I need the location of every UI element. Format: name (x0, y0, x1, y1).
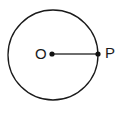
circle-radius-figure: O P (0, 0, 123, 115)
circumference-point-label: P (105, 45, 115, 60)
center-point-dot (49, 51, 54, 56)
center-point-label: O (35, 46, 47, 61)
circumference-point-dot (95, 51, 100, 56)
